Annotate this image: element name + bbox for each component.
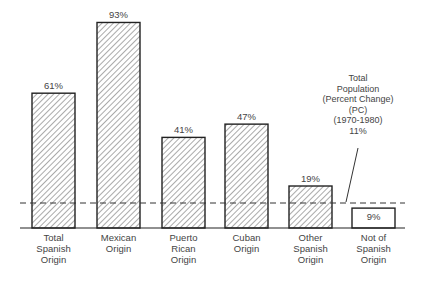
value-label: 47% bbox=[225, 111, 268, 122]
category-label-line: Origin bbox=[210, 243, 283, 254]
category-label-line: Origin bbox=[17, 254, 90, 265]
annotation-leader-line bbox=[346, 148, 358, 202]
value-label: 41% bbox=[162, 124, 205, 135]
category-label: MexicanOrigin bbox=[82, 232, 155, 254]
annotation-line: (1970-1980) bbox=[310, 115, 406, 126]
annotation-line: Total bbox=[310, 73, 406, 84]
category-label-line: Origin bbox=[82, 243, 155, 254]
bar bbox=[225, 124, 268, 228]
annotation-line: (Percent Change) bbox=[310, 94, 406, 105]
category-label-line: Origin bbox=[147, 254, 220, 265]
category-label: TotalSpanishOrigin bbox=[17, 232, 90, 265]
bar bbox=[32, 93, 75, 228]
category-label-line: Not of bbox=[337, 232, 410, 243]
bar bbox=[97, 22, 140, 228]
annotation-line: (PC) bbox=[310, 105, 406, 116]
category-label-line: Spanish bbox=[17, 243, 90, 254]
annotation-line: 11% bbox=[310, 126, 406, 137]
category-label-line: Total bbox=[17, 232, 90, 243]
bar bbox=[289, 186, 332, 228]
value-label: 61% bbox=[32, 80, 75, 91]
category-label-line: Mexican bbox=[82, 232, 155, 243]
value-label: 93% bbox=[97, 9, 140, 20]
category-label-line: Spanish bbox=[337, 243, 410, 254]
reference-annotation: Total Population (Percent Change) (PC) (… bbox=[310, 73, 406, 136]
category-label-line: Origin bbox=[337, 254, 410, 265]
value-label: 19% bbox=[289, 173, 332, 184]
annotation-line: Population bbox=[310, 84, 406, 95]
bar bbox=[162, 137, 205, 228]
category-label: CubanOrigin bbox=[210, 232, 283, 254]
category-label: Not ofSpanishOrigin bbox=[337, 232, 410, 265]
category-label-line: Cuban bbox=[210, 232, 283, 243]
value-label: 9% bbox=[352, 211, 395, 222]
